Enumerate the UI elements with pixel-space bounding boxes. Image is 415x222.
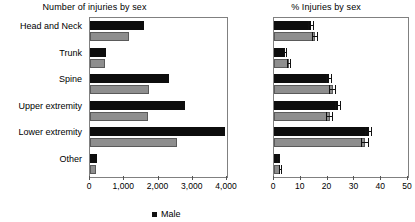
pct-bar-male-head-and-neck (274, 21, 311, 30)
x-tick-label: 2,000 (147, 181, 168, 191)
bar-group-other (90, 151, 227, 178)
bar-female-lower-extremity (90, 138, 177, 147)
pct-bar-group-upper-extremity (274, 98, 408, 125)
bar-male-head-and-neck (90, 21, 144, 30)
x-tick (123, 176, 124, 180)
error-bar-female-lower-extremity (361, 138, 369, 147)
y-label-other: Other (59, 154, 82, 165)
pct-bar-group-other (274, 151, 408, 178)
y-label-upper-extremity: Upper extremity (18, 101, 82, 112)
figure-two-panel-bar-charts: Number of injuries by sex Head and Neck … (0, 0, 415, 222)
pct-bar-male-spine (274, 74, 329, 83)
error-bar-female-other (279, 165, 282, 174)
x-tick (89, 176, 90, 180)
error-bar-male-head-and-neck (308, 21, 313, 30)
x-tick (192, 176, 193, 180)
y-label-spine: Spine (59, 74, 82, 85)
legend-male: Male (152, 209, 181, 220)
x-tick-label: 4,000 (215, 181, 236, 191)
bar-male-other (90, 154, 97, 163)
pct-bar-female-head-and-neck (274, 32, 315, 41)
x-tick (300, 176, 301, 180)
bar-group-head-and-neck (90, 18, 227, 45)
pct-bar-male-lower-extremity (274, 127, 369, 136)
pct-bar-group-trunk (274, 45, 408, 72)
bar-male-trunk (90, 48, 106, 57)
pct-bar-male-upper-extremity (274, 101, 338, 110)
x-axis-percent: 01020304050 (273, 176, 407, 192)
bar-female-upper-extremity (90, 112, 148, 121)
x-tick (158, 176, 159, 180)
x-axis-counts: 01,0002,0003,0004,000 (89, 176, 226, 192)
x-tick (380, 176, 381, 180)
x-tick-label: 1,000 (113, 181, 134, 191)
x-tick (407, 176, 408, 180)
bar-female-head-and-neck (90, 32, 129, 41)
error-bar-female-upper-extremity (326, 112, 333, 121)
bar-group-upper-extremity (90, 98, 227, 125)
x-tick-label: 40 (375, 181, 384, 191)
chart-title-left: Number of injuries by sex (0, 2, 217, 13)
error-bar-female-spine (329, 85, 336, 94)
y-axis-category-labels: Head and Neck Trunk Spine Upper extremit… (0, 17, 86, 176)
x-tick-label: 20 (322, 181, 331, 191)
legend-swatch-male-icon (152, 212, 157, 217)
error-bar-male-upper-extremity (335, 101, 341, 110)
x-tick-label: 50 (402, 181, 411, 191)
x-tick-label: 30 (349, 181, 358, 191)
pct-bar-female-spine (274, 85, 333, 94)
pct-bar-female-lower-extremity (274, 138, 365, 147)
x-tick-label: 10 (295, 181, 304, 191)
error-bar-male-trunk (284, 48, 287, 57)
x-tick-label: 0 (87, 181, 92, 191)
bar-group-spine (90, 71, 227, 98)
error-bar-male-lower-extremity (365, 127, 372, 136)
x-tick (226, 176, 227, 180)
error-bar-female-head-and-neck (312, 32, 318, 41)
legend-label-male: Male (161, 209, 181, 220)
panel-number-of-injuries: Number of injuries by sex Head and Neck … (0, 0, 245, 222)
y-label-trunk: Trunk (59, 48, 82, 59)
x-tick (353, 176, 354, 180)
error-bar-male-spine (326, 74, 332, 83)
y-label-head-and-neck: Head and Neck (20, 21, 82, 32)
bar-male-lower-extremity (90, 127, 225, 136)
plot-area-counts (89, 17, 228, 178)
bar-group-trunk (90, 45, 227, 72)
bar-female-spine (90, 85, 149, 94)
pct-bar-group-spine (274, 71, 408, 98)
x-tick-label: 3,000 (181, 181, 202, 191)
error-bar-female-trunk (287, 59, 291, 68)
chart-title-right: % Injuries by sex (241, 2, 411, 13)
bar-female-other (90, 165, 96, 174)
pct-bar-group-lower-extremity (274, 124, 408, 151)
bar-group-lower-extremity (90, 124, 227, 151)
pct-bar-female-upper-extremity (274, 112, 330, 121)
bar-male-spine (90, 74, 169, 83)
x-tick (273, 176, 274, 180)
x-tick-label: 0 (271, 181, 276, 191)
error-bar-male-other (277, 154, 280, 163)
bar-female-trunk (90, 59, 105, 68)
panel-percent-injuries: % Injuries by sex (245, 0, 415, 222)
plot-area-percent (273, 17, 409, 178)
y-label-lower-extremity: Lower extremity (18, 127, 82, 138)
pct-bar-group-head-and-neck (274, 18, 408, 45)
bar-male-upper-extremity (90, 101, 185, 110)
x-tick (327, 176, 328, 180)
